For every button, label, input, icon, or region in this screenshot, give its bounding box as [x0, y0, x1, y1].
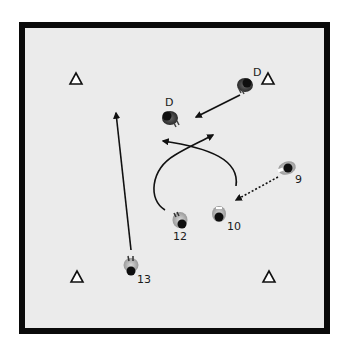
- attacker-13[interactable]: 13: [124, 256, 152, 286]
- player-head-icon: [215, 213, 224, 222]
- player-head-icon: [163, 112, 172, 121]
- defender-top-right[interactable]: D: [237, 66, 261, 94]
- cone-bottom-right: [263, 271, 275, 282]
- player-label: D: [165, 96, 173, 109]
- player-label: D: [253, 66, 261, 79]
- defender-run-arrow: [196, 95, 240, 117]
- cone-icon: [71, 271, 83, 282]
- player-label: 9: [295, 173, 302, 186]
- run-12-arrow: [154, 135, 213, 210]
- drill-diagram: D D 9 10 12 13: [0, 0, 344, 350]
- run-10-arrow: [163, 141, 236, 186]
- run-13-arrow: [116, 113, 131, 250]
- player-head-icon: [178, 220, 187, 229]
- player-head-icon: [243, 79, 252, 88]
- player-head-icon: [284, 164, 293, 173]
- player-label: 13: [137, 273, 151, 286]
- pass-9-to-10-arrow: [236, 177, 278, 200]
- player-head-icon: [127, 267, 136, 276]
- cone-bottom-left: [71, 271, 83, 282]
- attacker-9[interactable]: 9: [276, 159, 302, 186]
- cone-icon: [262, 73, 274, 84]
- player-label: 12: [173, 230, 187, 243]
- cone-top-right: [262, 73, 274, 84]
- cone-top-left: [70, 73, 82, 84]
- cone-icon: [70, 73, 82, 84]
- movement-arrows: [116, 95, 278, 250]
- defender-center[interactable]: D: [162, 96, 179, 127]
- cone-icon: [263, 271, 275, 282]
- attacker-12[interactable]: 12: [173, 212, 188, 243]
- attacker-10[interactable]: 10: [212, 206, 241, 233]
- player-feet-icon: [278, 169, 283, 171]
- player-label: 10: [227, 220, 241, 233]
